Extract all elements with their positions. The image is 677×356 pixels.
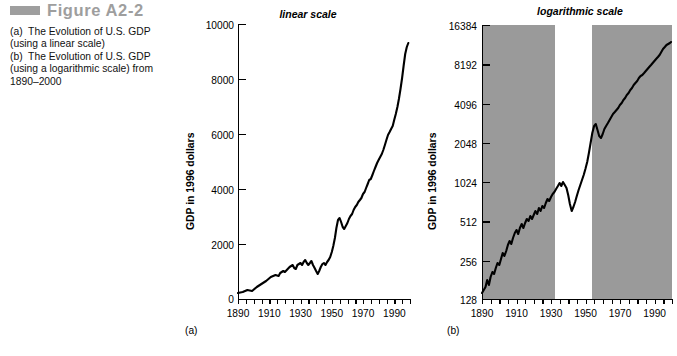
caption-line: (using a linear scale) (10, 38, 192, 51)
caption-line: (using a logarithmic scale) from (10, 63, 192, 76)
chart-a-xtick (363, 299, 364, 304)
chart-b-ytick-label: 8192 (429, 60, 477, 71)
chart-a-ytick-label: 8000 (188, 75, 234, 86)
chart-b-xtick (499, 299, 500, 304)
chart-b-ytick-label: 1024 (429, 178, 477, 189)
chart-a-xtick (379, 299, 380, 304)
chart-b-xtick (517, 299, 518, 304)
chart-a-xtick-label: 1930 (289, 308, 312, 319)
chart-b-xtick (612, 299, 613, 304)
chart-b-xtick (637, 299, 638, 304)
chart-a-xtick (348, 299, 349, 304)
chart-a-xtick (293, 299, 294, 304)
chart-b-ytick-label: 16384 (429, 21, 477, 32)
chart-a-ylabel: GDP in 1996 dollars (185, 133, 196, 230)
chart-b-xtick (594, 299, 595, 304)
chart-b-xtick (551, 299, 552, 304)
chart-a-panel-letter: (a) (185, 325, 197, 336)
chart-a-xtick (410, 299, 411, 304)
chart-b-xtick (603, 299, 604, 304)
chart-a-xtick (316, 299, 317, 304)
chart-a-xtick-label: 1890 (227, 308, 250, 319)
chart-a-xtick-label: 1910 (258, 308, 281, 319)
chart-b-ytick-label: 128 (429, 295, 477, 306)
chart-b-xtick (560, 299, 561, 304)
chart-a-series-line (238, 43, 408, 293)
chart-a-ytick-label: 2000 (188, 240, 234, 251)
chart-a-xtick-label: 1950 (320, 308, 343, 319)
chart-b-xtick-label: 1990 (643, 308, 666, 319)
chart-a-xtick (324, 299, 325, 304)
chart-a-ytick-label: 10000 (188, 20, 234, 31)
chart-b-xtick-label: 1890 (471, 308, 494, 319)
chart-b-xtick (508, 299, 509, 304)
chart-b-xtick-label: 1970 (609, 308, 632, 319)
chart-a-xtick (254, 299, 255, 304)
chart-a-xtick (262, 299, 263, 304)
chart-a-xtick (277, 299, 278, 304)
chart-b-xtick (586, 299, 587, 304)
chart-a-xtick (308, 299, 309, 304)
chart-a-xtick (246, 299, 247, 304)
chart-a-ytick-label: 4000 (188, 185, 234, 196)
chart-b-panel-letter: (b) (447, 325, 459, 336)
chart-b-title: logarithmic scale (480, 5, 677, 17)
chart-a-xtick (269, 299, 270, 304)
chart-b-ytick-label: 4096 (429, 99, 477, 110)
chart-b-ytick-label: 512 (429, 217, 477, 228)
chart-b-xtick (577, 299, 578, 304)
chart-b-xtick (491, 299, 492, 304)
chart-b-xtick-label: 1930 (540, 308, 563, 319)
chart-a-xtick (402, 299, 403, 304)
chart-b-xtick-label: 1910 (505, 308, 528, 319)
chart-b-ytick-label: 2048 (429, 138, 477, 149)
chart-a-xtick (355, 299, 356, 304)
chart-a-xtick (285, 299, 286, 304)
caption-line: (a) The Evolution of U.S. GDP (10, 26, 192, 39)
chart-b-xtick (672, 299, 673, 304)
chart-a-xtick (332, 299, 333, 304)
figure-header: Figure A2-2 (10, 2, 192, 19)
chart-b-xtick (525, 299, 526, 304)
chart-a-xtick (387, 299, 388, 304)
chart-a-xtick-label: 1990 (383, 308, 406, 319)
chart-linear-scale: linear scale GDP in 1996 dollars 10000 8… (180, 0, 420, 356)
chart-b-xtick (482, 299, 483, 304)
chart-a-xtick-label: 1970 (352, 308, 375, 319)
chart-b-xtick (646, 299, 647, 304)
chart-a-series-svg (238, 24, 410, 300)
chart-b-xtick (542, 299, 543, 304)
chart-b-xtick (534, 299, 535, 304)
chart-b-xtick (620, 299, 621, 304)
chart-a-xtick (340, 299, 341, 304)
chart-a-xtick (394, 299, 395, 304)
chart-b-xtick (568, 299, 569, 304)
chart-b-xtick (629, 299, 630, 304)
chart-b-xtick (663, 299, 664, 304)
figure-marker-bar-icon (10, 6, 40, 15)
chart-a-xtick (238, 299, 239, 304)
chart-b-ytick-label: 256 (429, 256, 477, 267)
chart-b-series-line (482, 42, 671, 293)
caption-line: 1890–2000 (10, 76, 192, 89)
chart-b-series-svg (482, 25, 672, 300)
figure-title: Figure A2-2 (47, 2, 144, 19)
figure-caption-block: Figure A2-2 (a) The Evolution of U.S. GD… (10, 2, 192, 88)
chart-b-xtick (655, 299, 656, 304)
caption-line: (b) The Evolution of U.S. GDP (10, 51, 192, 64)
chart-a-xtick (301, 299, 302, 304)
chart-a-ytick-label: 6000 (188, 130, 234, 141)
chart-b-xtick-label: 1950 (574, 308, 597, 319)
chart-logarithmic-scale: logarithmic scale GDP in 1996 dollars 16… (425, 0, 677, 356)
chart-a-xtick (371, 299, 372, 304)
chart-a-ytick-label: 0 (188, 294, 234, 305)
chart-a-title: linear scale (238, 8, 378, 20)
